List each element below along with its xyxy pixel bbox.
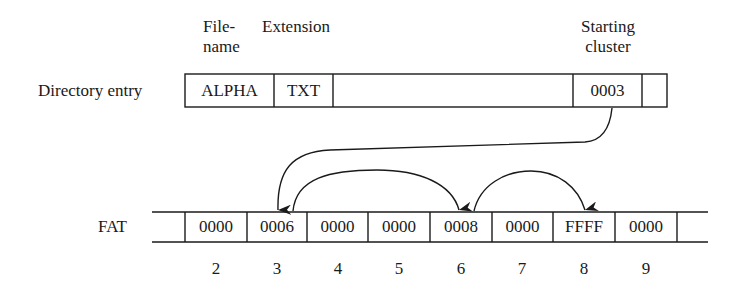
header-starting-line1: Starting: [572, 17, 644, 37]
header-extension: Extension: [262, 17, 330, 37]
extension-cell: TXT: [274, 74, 333, 107]
fat-cell-2: 0000: [185, 212, 247, 242]
fat-index-3: 3: [246, 259, 308, 279]
filename-cell: ALPHA: [185, 74, 274, 107]
fat-index-2: 2: [185, 259, 247, 279]
header-starting-line2: cluster: [572, 37, 644, 57]
fat-cell-9: 0000: [615, 212, 677, 242]
fat-cell-3: 0006: [247, 212, 307, 242]
fat-index-6: 6: [430, 259, 492, 279]
fat-index-5: 5: [368, 259, 430, 279]
fat-cell-4: 0000: [307, 212, 368, 242]
arrow-3-to-6: [293, 170, 459, 211]
fat-cell-8: FFFF: [553, 212, 615, 242]
fat-cell-5: 0000: [368, 212, 430, 242]
fat-cell-7: 0000: [492, 212, 553, 242]
header-filename-line2: name: [203, 37, 240, 57]
fat-index-7: 7: [491, 259, 553, 279]
fat-index-8: 8: [553, 259, 615, 279]
fat-index-9: 9: [615, 259, 677, 279]
arrow-start-to-3: [278, 108, 612, 210]
arrow-6-to-8: [474, 171, 585, 211]
fat-index-4: 4: [307, 259, 369, 279]
header-filename-line1: File-: [203, 17, 235, 37]
fat-cell-6: 0008: [430, 212, 492, 242]
fat-label: FAT: [98, 217, 127, 237]
directory-entry-label: Directory entry: [38, 81, 142, 101]
starting-cluster-cell: 0003: [573, 74, 642, 107]
